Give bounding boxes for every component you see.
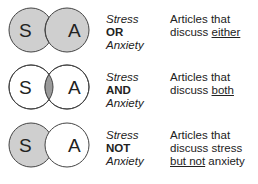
description-or: Articles that discuss either xyxy=(170,13,240,39)
desc-line: Articles that xyxy=(170,71,234,84)
venn-or: S A xyxy=(9,8,89,52)
desc-line: discuss stress xyxy=(170,142,245,155)
desc-line: Articles that xyxy=(170,129,245,142)
operator-or: OR xyxy=(106,26,144,39)
term-stress: Stress xyxy=(106,129,144,142)
operator-and: AND xyxy=(106,84,144,97)
circle-anxiety xyxy=(45,123,89,167)
emphasis: either xyxy=(212,26,241,38)
emphasis: but not xyxy=(170,155,205,167)
term-anxiety: Anxiety xyxy=(106,97,144,110)
term-anxiety: Anxiety xyxy=(106,39,144,52)
term-anxiety: Anxiety xyxy=(106,155,144,168)
desc-text: discuss xyxy=(170,26,212,38)
description-and: Articles that discuss both xyxy=(170,71,234,97)
desc-line: Articles that xyxy=(170,13,240,26)
term-stress: Stress xyxy=(106,71,144,84)
query-or: Stress OR Anxiety xyxy=(106,13,144,52)
venn-and: S A xyxy=(9,65,89,109)
desc-line: discuss both xyxy=(170,84,234,97)
desc-text: discuss xyxy=(170,84,212,96)
label-a: A xyxy=(68,20,81,41)
label-s: S xyxy=(19,135,32,156)
venn-not: S A xyxy=(9,123,89,167)
term-stress: Stress xyxy=(106,13,144,26)
label-s: S xyxy=(19,20,32,41)
desc-line: but not anxiety xyxy=(170,155,245,168)
emphasis: both xyxy=(212,84,234,96)
description-not: Articles that discuss stress but not anx… xyxy=(170,129,245,168)
circle-anxiety xyxy=(45,8,89,52)
label-s: S xyxy=(19,77,32,98)
label-a: A xyxy=(68,77,81,98)
label-a: A xyxy=(68,135,81,156)
desc-text: anxiety xyxy=(205,155,245,167)
query-not: Stress NOT Anxiety xyxy=(106,129,144,168)
operator-not: NOT xyxy=(106,142,144,155)
desc-line: discuss either xyxy=(170,26,240,39)
query-and: Stress AND Anxiety xyxy=(106,71,144,110)
